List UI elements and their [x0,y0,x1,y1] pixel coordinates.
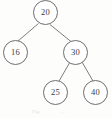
binary-tree-figure: 20 16 30 25 40 Fig. … [0,0,112,118]
edge-right-to-left-child [59,62,71,82]
caption-fragment-right: … [60,109,65,115]
edge-root-to-left [18,24,39,42]
tree-node-right[interactable]: 30 [63,40,88,65]
tree-node-right-right[interactable]: 40 [83,80,108,105]
node-label-left: 16 [3,40,28,65]
caption-fragment-left: Fig. [32,109,40,115]
node-label-right-right: 40 [83,80,108,105]
node-label-root: 20 [33,0,58,25]
figure-caption: Fig. … [30,108,110,117]
tree-node-root[interactable]: 20 [33,0,58,25]
tree-node-right-left[interactable]: 25 [43,80,68,105]
tree-node-left[interactable]: 16 [3,40,28,65]
node-label-right-left: 25 [43,80,68,105]
node-label-right: 30 [63,40,88,65]
